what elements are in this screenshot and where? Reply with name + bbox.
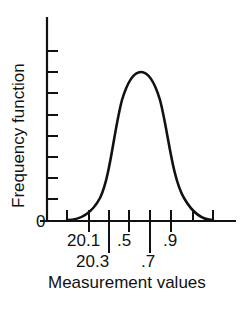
x-tick-label-20-1: 20.1 [67, 231, 100, 250]
x-tick-label-9: .9 [163, 231, 177, 250]
x-tick-label-20-3: 20.3 [76, 252, 109, 271]
y-origin-label: 0 [36, 212, 45, 231]
x-axis-title: Measurement values [48, 273, 206, 292]
frequency-chart: 0 20.1 .5 .9 20.3 .7 Measurement values … [0, 0, 250, 317]
y-ticks [47, 51, 58, 199]
y-axis-title: Frequency function [9, 63, 28, 208]
frequency-curve [67, 72, 213, 220]
x-tick-label-7: .7 [141, 252, 155, 271]
x-tick-label-5: .5 [117, 231, 131, 250]
